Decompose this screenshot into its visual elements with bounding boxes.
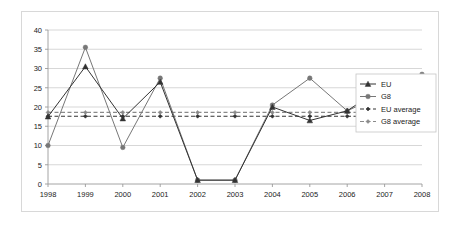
y-axis-tick-label: 20 [34, 103, 42, 112]
data-point [270, 114, 274, 118]
data-point [308, 76, 313, 81]
x-axis-tick-label: 2008 [414, 190, 431, 199]
x-axis-tick-label: 2004 [264, 190, 281, 199]
data-point [83, 45, 88, 50]
legend-item-label: EU average [381, 105, 421, 114]
data-point [121, 145, 126, 150]
data-point [83, 114, 87, 118]
legend-item-label: G8 [381, 92, 391, 101]
y-axis-tick-label: 15 [34, 122, 42, 131]
data-point [196, 114, 200, 118]
y-axis-tick-label: 5 [38, 161, 42, 170]
data-point [233, 110, 237, 114]
x-axis-tick-label: 1999 [77, 190, 94, 199]
data-point [158, 110, 162, 114]
data-point [158, 114, 162, 118]
legend-swatch-marker [366, 94, 371, 99]
data-point [233, 114, 237, 118]
x-axis-tick-label: 2002 [189, 190, 206, 199]
x-axis-tick-label: 2006 [339, 190, 356, 199]
line-chart-svg: 0510152025303540 19981999200020012002200… [22, 12, 440, 213]
chart-legend: EUG8EU averageG8 average [356, 74, 436, 132]
y-axis-tick-label: 25 [34, 84, 42, 93]
x-axis-tick-label: 2001 [152, 190, 169, 199]
data-point [308, 110, 312, 114]
legend-item-label: G8 average [381, 117, 420, 126]
y-axis-tick-label: 30 [34, 64, 42, 73]
x-axis-tick-label: 2007 [376, 190, 393, 199]
x-axis-label-group: 1998199920002001200220032004200520062007… [40, 190, 431, 199]
legend-item-label: EU [381, 80, 391, 89]
data-point [345, 114, 349, 118]
y-axis-tick-label: 35 [34, 45, 42, 54]
data-point [46, 143, 51, 148]
y-axis-tick-label: 40 [34, 26, 42, 35]
y-axis-tick-label: 10 [34, 141, 42, 150]
plot-area: 0510152025303540 19981999200020012002200… [22, 12, 440, 213]
y-axis-tick-label: 0 [38, 180, 42, 189]
x-axis-tick-label: 2000 [114, 190, 131, 199]
data-point [196, 110, 200, 114]
y-axis-label-group: 0510152025303540 [34, 26, 42, 189]
x-axis-tick-label: 2003 [227, 190, 244, 199]
data-point [270, 110, 274, 114]
data-point [121, 110, 125, 114]
x-axis-tick-label: 1998 [40, 190, 57, 199]
chart-container: 0510152025303540 19981999200020012002200… [21, 11, 439, 212]
data-point [83, 64, 89, 69]
x-axis-tick-label: 2005 [301, 190, 318, 199]
data-point [83, 110, 87, 114]
